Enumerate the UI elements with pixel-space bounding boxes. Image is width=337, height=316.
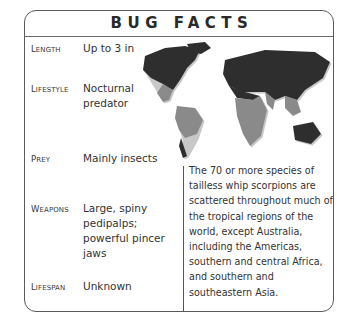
card-title: BUG FACTS bbox=[25, 11, 333, 37]
bug-facts-card: BUG FACTS LENGTH Up to 3 in LIFESTYLE No… bbox=[24, 10, 334, 312]
fact-label: LIFESTYLE bbox=[31, 84, 68, 94]
range-description: The 70 or more species of tailless whip … bbox=[189, 163, 335, 300]
world-map-icon bbox=[125, 38, 335, 166]
fact-label: LENGTH bbox=[31, 44, 61, 54]
fact-label: LIFESPAN bbox=[31, 282, 65, 292]
fact-value: Large, spiny pedipalps; powerful pincer … bbox=[83, 201, 175, 261]
fact-label: WEAPONS bbox=[31, 204, 69, 214]
fact-label: PREY bbox=[31, 154, 50, 164]
column-divider bbox=[183, 166, 184, 311]
fact-value: Unknown bbox=[83, 279, 183, 294]
